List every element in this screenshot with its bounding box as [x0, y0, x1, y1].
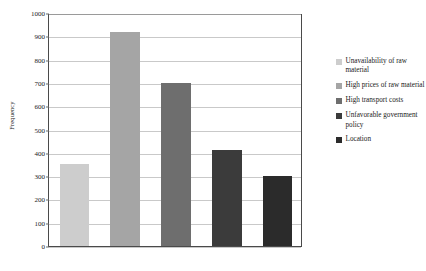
y-axis-title: Frequency [8, 81, 15, 151]
bar-chart-figure: Frequency 010020030040050060070080090010… [0, 0, 426, 271]
bar [60, 164, 90, 246]
y-axis-tick-label: 800 [35, 57, 46, 65]
bar [212, 150, 242, 246]
y-axis-tick-label: 400 [35, 150, 46, 158]
y-axis-tick-label: 300 [35, 173, 46, 181]
plot-area: 01002003004005006007008009001000 [48, 14, 302, 247]
gridline [49, 247, 301, 248]
legend-swatch-icon [336, 113, 342, 119]
legend-entry[interactable]: High prices of raw material [336, 81, 426, 90]
y-axis-tick-label: 700 [35, 80, 46, 88]
legend-swatch-icon [336, 98, 342, 104]
legend-label: High prices of raw material [346, 81, 425, 90]
y-axis-tick-label: 200 [35, 196, 46, 204]
legend-entry[interactable]: Location [336, 135, 426, 144]
legend-swatch-icon [336, 137, 342, 143]
y-axis-tick-label: 500 [35, 127, 46, 135]
legend-label: Unavailability of raw material [346, 57, 426, 76]
legend-label: High transport costs [346, 96, 404, 105]
y-axis-tick-label: 1000 [31, 10, 45, 18]
y-axis-tick-mark [46, 247, 50, 248]
legend-swatch-icon [336, 59, 342, 65]
y-axis-tick-label: 600 [35, 103, 46, 111]
bar [110, 32, 140, 246]
legend-entry[interactable]: High transport costs [336, 96, 426, 105]
legend-label: Location [346, 135, 372, 144]
chart-legend: Unavailability of raw materialHigh price… [336, 57, 426, 150]
legend-swatch-icon [336, 83, 342, 89]
y-axis-tick-label: 900 [35, 33, 46, 41]
bars-group [49, 14, 301, 246]
legend-label: Unfavorable government policy [346, 111, 426, 130]
y-axis-tick-label: 100 [35, 220, 46, 228]
bar [161, 83, 191, 246]
legend-entry[interactable]: Unavailability of raw material [336, 57, 426, 76]
legend-entry[interactable]: Unfavorable government policy [336, 111, 426, 130]
y-axis-tick-label: 0 [42, 243, 46, 251]
bar [263, 176, 293, 246]
